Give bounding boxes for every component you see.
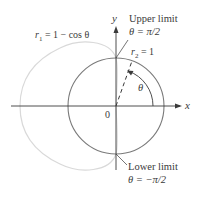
r1-equation-rest: = 1 − cos θ [42,29,89,40]
lower-limit-leader [116,154,127,165]
r2-equation-label: r2 = 1 [131,47,154,60]
lower-limit-value: θ = −π/2 [128,175,166,186]
x-axis-label: x [185,100,190,111]
y-axis-arrow-icon [114,26,119,33]
origin-label: 0 [105,110,110,120]
upper-limit-value: θ = π/2 [129,27,160,38]
y-axis-label: y [112,13,117,24]
r1-equation-label: r1 = 1 − cos θ [35,30,89,43]
theta-angle-label: θ [138,83,143,94]
x-axis-arrow-icon [175,104,182,109]
radius-dashed-line [116,61,132,106]
lower-limit-title: Lower limit [128,162,178,173]
upper-limit-title: Upper limit [129,14,178,25]
r2-equation-rest: = 1 [138,46,154,57]
upper-limit-leader [116,40,128,58]
